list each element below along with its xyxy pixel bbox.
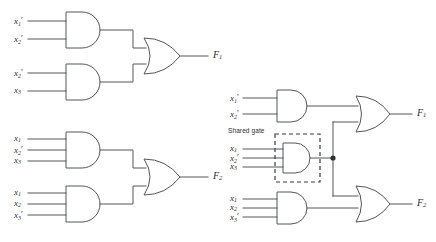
left-f2-or-gate bbox=[144, 159, 180, 195]
left-f1-and-top-output-wire bbox=[100, 30, 146, 48]
right-input-1-label: x1′ bbox=[230, 93, 239, 104]
right-and-bottom-gate bbox=[277, 192, 307, 224]
left-f2-and-bottom-output-wire bbox=[100, 186, 146, 204]
right-or-bottom-gate bbox=[356, 186, 390, 222]
right-shared-input-3-label: x3 bbox=[230, 162, 237, 171]
left-f2-input-5-label: x2 bbox=[14, 199, 21, 208]
left-f1-input-3-label: x2′ bbox=[14, 68, 23, 79]
left-f2-input-3-label: x3 bbox=[14, 156, 21, 165]
circuit-svg bbox=[0, 0, 436, 242]
shared-gate-label: Shared gate bbox=[228, 128, 265, 135]
left-f1-input-4-label: x3 bbox=[14, 86, 21, 95]
left-f2-input-6-label: x3′ bbox=[14, 210, 23, 221]
left-f2-output-label: F2 bbox=[213, 171, 222, 182]
left-f1-and-bottom-output-wire bbox=[100, 64, 146, 82]
left-f2-and-top-gate bbox=[66, 132, 100, 168]
left-f1-input-1-label: x1′ bbox=[14, 16, 23, 27]
left-f2-circuit bbox=[28, 132, 208, 222]
left-f1-and-top-gate bbox=[66, 12, 100, 48]
right-shared-circuit bbox=[243, 90, 412, 224]
left-f1-input-2-label: x2′ bbox=[14, 34, 23, 45]
right-shared-input-1-label: x1 bbox=[230, 144, 237, 153]
figure-canvas: x1′ x2′ x2′ x3 F1 x1 x2′ x3 x1 x2 x3′ F2… bbox=[0, 0, 436, 242]
left-f1-output-label: F1 bbox=[213, 50, 222, 61]
left-f1-and-bottom-gate bbox=[66, 64, 100, 100]
right-bottom-input-3-label: x3′ bbox=[230, 212, 239, 223]
left-f1-or-gate bbox=[144, 38, 180, 74]
right-and-top-gate bbox=[277, 90, 307, 122]
right-input-2-label: x2′ bbox=[230, 109, 239, 120]
right-and-shared-gate bbox=[283, 143, 310, 173]
left-f2-and-bottom-gate bbox=[66, 186, 100, 222]
right-output-2-label: F2 bbox=[417, 198, 426, 209]
left-f2-input-4-label: x1 bbox=[14, 188, 21, 197]
left-f2-input-1-label: x1 bbox=[14, 134, 21, 143]
shared-output-junction-dot bbox=[330, 155, 335, 160]
left-f1-circuit bbox=[28, 12, 208, 100]
right-or-top-gate bbox=[356, 96, 390, 132]
left-f2-and-top-output-wire bbox=[100, 150, 146, 168]
right-bottom-input-2-label: x2 bbox=[230, 203, 237, 212]
right-output-1-label: F1 bbox=[417, 108, 426, 119]
